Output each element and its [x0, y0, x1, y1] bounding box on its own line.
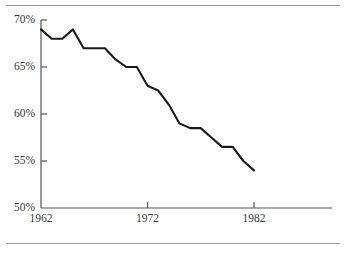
data-series-line	[41, 29, 254, 170]
y-axis-label-55: 55%	[1, 154, 35, 166]
y-axis-label-60: 60%	[1, 107, 35, 119]
tick-marks	[41, 20, 254, 208]
x-axis-label-1962: 1962	[17, 212, 65, 224]
x-axis-label-1982: 1982	[230, 212, 278, 224]
y-axis-label-70: 70%	[1, 13, 35, 25]
y-axis-label-65: 65%	[1, 60, 35, 72]
chart-figure: 70%65%60%55%50% 196219721982	[0, 0, 346, 255]
x-axis-label-1972: 1972	[124, 212, 172, 224]
